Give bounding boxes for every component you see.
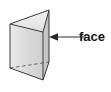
- geometry-figure: face: [0, 0, 111, 92]
- leader-arrowhead-icon: [49, 33, 58, 41]
- prism-drawing: [0, 0, 111, 92]
- prism-front-face: [10, 24, 43, 80]
- face-label: face: [79, 30, 105, 43]
